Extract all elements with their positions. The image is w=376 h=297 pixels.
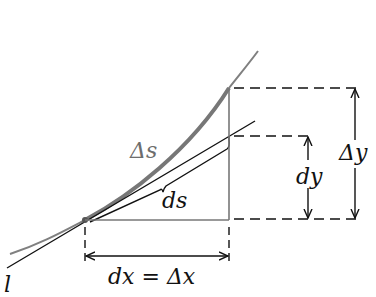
diagram-svg bbox=[0, 0, 376, 297]
tangent-label: l bbox=[4, 274, 11, 296]
diagram-canvas: Δs ds dy Δy dx = Δx l bbox=[0, 0, 376, 297]
ds-label: ds bbox=[162, 190, 187, 212]
dx-label: dx = Δx bbox=[108, 266, 195, 288]
delta-y-label: Δy bbox=[339, 142, 367, 164]
dy-label: dy bbox=[296, 166, 323, 188]
delta-s-label: Δs bbox=[130, 140, 157, 162]
